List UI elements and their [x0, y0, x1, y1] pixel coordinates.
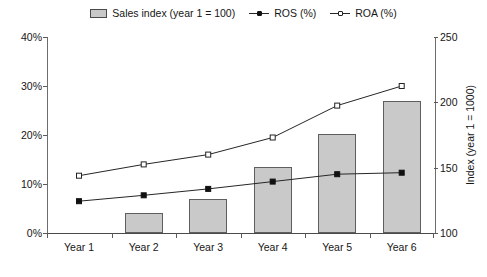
legend-label-ros: ROS (%) [274, 7, 316, 19]
x-tick-label-year-3: Year 3 [193, 241, 223, 253]
ros-line [79, 173, 402, 202]
chart-legend: Sales index (year 1 = 100) ROS (%) ROA (… [0, 7, 487, 19]
ros-marker-year-1 [77, 199, 82, 204]
right-tick-mark-250 [434, 37, 438, 38]
ros-marker-year-5 [335, 172, 340, 177]
right-tick-label-250: 250 [440, 31, 458, 43]
right-tick-label-200: 200 [440, 96, 458, 108]
roa-marker-year-2 [141, 162, 146, 167]
legend-item-roa: ROA (%) [330, 7, 396, 19]
left-tick-label-0: 0% [27, 227, 42, 239]
legend-label-roa: ROA (%) [355, 7, 396, 19]
x-tick-mark-edge-2 [176, 233, 177, 238]
line-open-marker-icon [330, 9, 350, 18]
roa-marker-year-3 [206, 152, 211, 157]
right-tick-mark-150 [434, 168, 438, 169]
roa-marker-year-1 [77, 173, 82, 178]
ros-marker-year-3 [206, 186, 211, 191]
x-tick-mark-edge-4 [305, 233, 306, 238]
x-tick-mark-edge-0 [47, 233, 48, 238]
ros-marker-year-6 [399, 170, 404, 175]
right-tick-mark-100 [434, 233, 438, 234]
roa-line [79, 86, 402, 176]
left-tick-label-40: 40% [21, 31, 42, 43]
ros-marker-year-2 [141, 193, 146, 198]
x-tick-mark-edge-3 [241, 233, 242, 238]
line-series-layer [47, 37, 434, 233]
legend-label-sales-index: Sales index (year 1 = 100) [112, 7, 235, 19]
legend-item-sales-index: Sales index (year 1 = 100) [90, 7, 235, 19]
x-tick-label-year-1: Year 1 [64, 241, 94, 253]
line-filled-marker-icon [249, 9, 269, 18]
x-tick-mark-edge-5 [370, 233, 371, 238]
roa-marker-year-5 [335, 103, 340, 108]
right-tick-mark-200 [434, 102, 438, 103]
roa-marker-year-4 [270, 135, 275, 140]
legend-item-ros: ROS (%) [249, 7, 316, 19]
right-tick-label-100: 100 [440, 227, 458, 239]
chart-container: Sales index (year 1 = 100) ROS (%) ROA (… [0, 0, 487, 277]
x-tick-mark-edge-6 [433, 233, 434, 238]
x-tick-label-year-2: Year 2 [129, 241, 159, 253]
left-tick-label-20: 20% [21, 129, 42, 141]
x-tick-label-year-4: Year 4 [258, 241, 288, 253]
right-axis-title: Index (year 1 = 1000) [462, 37, 478, 233]
plot-area: 0% 10% 20% 30% 40% 100 150 200 250 Year … [47, 37, 434, 233]
x-tick-label-year-5: Year 5 [322, 241, 352, 253]
x-tick-mark-edge-1 [112, 233, 113, 238]
roa-marker-year-6 [399, 84, 404, 89]
left-tick-label-30: 30% [21, 80, 42, 92]
ros-marker-year-4 [270, 179, 275, 184]
bar-swatch-icon [90, 9, 107, 18]
x-tick-label-year-6: Year 6 [387, 241, 417, 253]
left-tick-label-10: 10% [21, 178, 42, 190]
right-tick-label-150: 150 [440, 162, 458, 174]
